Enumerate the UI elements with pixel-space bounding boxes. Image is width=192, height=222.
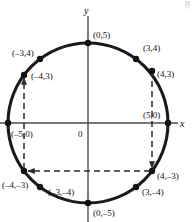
point-dot-m4-3 <box>21 72 27 78</box>
point-label-m4-m3: (–4,–3) <box>2 180 28 190</box>
point-dot-4-m3 <box>149 168 155 174</box>
point-label-0-5: (0,5) <box>93 30 110 40</box>
point-dot-m3-m4 <box>37 184 43 190</box>
point-label-m3-m4: (–3,–4) <box>48 187 74 197</box>
point-label-4-m3: (4,–3) <box>157 171 179 181</box>
figure-canvas: (0,5) (3,4) (4,3) (5,0) (4,–3) (3,–4) (0… <box>0 0 192 222</box>
point-dot-m3-4 <box>37 56 43 62</box>
point-dot-m4-m3 <box>21 168 27 174</box>
point-dot-4-3 <box>149 68 155 74</box>
point-dot-m5-0 <box>5 120 11 126</box>
point-dot-5-0 <box>165 120 171 126</box>
circle-lattice-figure: (0,5) (3,4) (4,3) (5,0) (4,–3) (3,–4) (0… <box>0 0 192 222</box>
point-dot-0-5 <box>85 40 91 46</box>
point-label-3-4: (3,4) <box>143 43 160 53</box>
point-label-m3-4: (–3,4) <box>12 48 34 58</box>
point-label-5-0: (5,0) <box>143 110 160 120</box>
y-axis-label: y <box>83 5 89 16</box>
point-label-m4-3: (–4,3) <box>31 71 53 81</box>
point-label-m5-0: (–5,0) <box>11 129 33 139</box>
point-dot-0-m5 <box>85 200 91 206</box>
point-label-4-3: (4,3) <box>157 69 174 79</box>
origin-label: 0 <box>78 129 83 139</box>
point-dot-3-m4 <box>133 184 139 190</box>
scan-artifact-mark <box>185 1 190 9</box>
x-axis-label: x <box>179 118 185 129</box>
point-dot-3-4 <box>133 56 139 62</box>
point-label-0-m5: (0,–5) <box>93 208 115 218</box>
point-label-3-m4: (3,–4) <box>142 187 164 197</box>
